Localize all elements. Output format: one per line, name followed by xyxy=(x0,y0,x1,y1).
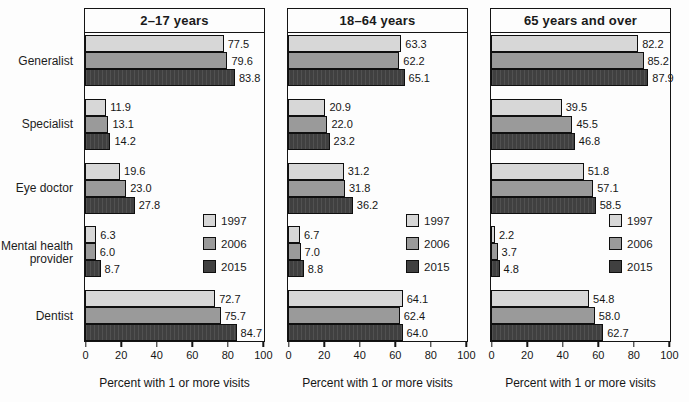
bar-row: 39.5 xyxy=(491,99,670,116)
legend-label: 2006 xyxy=(221,238,247,250)
bar-value-label: 8.7 xyxy=(105,263,120,275)
bar-value-label: 54.8 xyxy=(593,293,614,305)
bar-value-label: 22.0 xyxy=(331,118,352,130)
bar-row: 64.0 xyxy=(288,324,467,341)
bar-row: 11.9 xyxy=(85,99,264,116)
bar-group-specialist: 11.913.114.2 xyxy=(85,99,264,150)
bar-value-label: 57.1 xyxy=(597,182,618,194)
bar-group-dentist: 64.162.464.0 xyxy=(288,290,467,341)
bar-1997 xyxy=(491,99,562,116)
bar-1997 xyxy=(85,99,106,116)
bar-2006 xyxy=(491,52,644,69)
x-tick-label: 40 xyxy=(151,349,163,361)
bar-2006 xyxy=(288,243,301,260)
bar-group-dentist: 72.775.784.7 xyxy=(85,290,264,341)
bar-2015 xyxy=(85,133,110,150)
x-tick-label: 60 xyxy=(389,349,401,361)
legend-label: 2015 xyxy=(221,261,247,273)
x-tick-label: 60 xyxy=(592,349,604,361)
x-tick-label: 80 xyxy=(628,349,640,361)
bar-value-label: 58.5 xyxy=(600,199,621,211)
bar-value-label: 27.8 xyxy=(139,199,160,211)
category-label-dentist: Dentist xyxy=(0,310,80,324)
bar-row: 54.8 xyxy=(491,290,670,307)
x-tick-label: 100 xyxy=(660,349,678,361)
panel-2-17-years: 2–17 years77.579.683.811.913.114.219.623… xyxy=(84,8,265,390)
bar-row: 27.8 xyxy=(85,197,264,214)
x-tick-mark xyxy=(288,342,289,347)
category-label-eye-doctor: Eye doctor xyxy=(0,182,80,196)
panel-box: 18–64 years63.362.265.120.922.023.231.23… xyxy=(287,8,468,342)
bar-row: 31.2 xyxy=(288,163,467,180)
bar-row: 45.5 xyxy=(491,116,670,133)
bar-row: 14.2 xyxy=(85,133,264,150)
bar-row: 46.8 xyxy=(491,133,670,150)
bar-value-label: 45.5 xyxy=(576,118,597,130)
x-tick-mark xyxy=(491,342,492,347)
bar-value-label: 51.8 xyxy=(588,165,609,177)
bar-value-label: 46.8 xyxy=(579,135,600,147)
bar-2006 xyxy=(85,180,126,197)
bar-row: 64.1 xyxy=(288,290,467,307)
bar-row: 75.7 xyxy=(85,307,264,324)
bar-1997 xyxy=(491,290,589,307)
legend-swatch-2015 xyxy=(406,260,419,273)
x-tick-mark xyxy=(323,342,324,347)
bar-row: 22.0 xyxy=(288,116,467,133)
bar-value-label: 58.0 xyxy=(599,310,620,322)
x-tick-mark xyxy=(633,342,634,347)
x-tick-mark xyxy=(227,342,228,347)
bar-2015 xyxy=(288,197,353,214)
bar-2006 xyxy=(288,307,400,324)
category-labels: GeneralistSpecialistEye doctorMental hea… xyxy=(0,0,80,402)
x-tick-mark xyxy=(263,342,264,347)
x-tick-label: 0 xyxy=(286,349,292,361)
legend-row-1997: 1997 xyxy=(609,213,653,228)
bar-2015 xyxy=(288,260,304,277)
legend-row-2006: 2006 xyxy=(609,236,653,251)
bar-2006 xyxy=(288,52,399,69)
x-tick-label: 100 xyxy=(254,349,272,361)
panel-65-years-and-over: 65 years and over82.285.287.939.545.546.… xyxy=(490,8,671,390)
x-axis: 020406080100 xyxy=(492,342,670,367)
bar-2006 xyxy=(491,243,498,260)
legend-row-2015: 2015 xyxy=(609,259,653,274)
bar-2015 xyxy=(85,197,135,214)
panel-box: 65 years and over82.285.287.939.545.546.… xyxy=(490,8,671,342)
bar-row: 23.0 xyxy=(85,180,264,197)
bar-row: 63.3 xyxy=(288,35,467,52)
bar-2015 xyxy=(85,260,101,277)
x-tick-mark xyxy=(395,342,396,347)
x-tick-label: 80 xyxy=(425,349,437,361)
legend-swatch-1997 xyxy=(203,214,216,227)
bar-group-generalist: 63.362.265.1 xyxy=(288,35,467,86)
bar-1997 xyxy=(288,99,325,116)
bar-1997 xyxy=(288,35,401,52)
bar-2006 xyxy=(85,116,108,133)
legend-swatch-2006 xyxy=(406,237,419,250)
bar-2006 xyxy=(491,180,593,197)
x-tick-mark xyxy=(359,342,360,347)
bar-2006 xyxy=(85,52,227,69)
bar-row: 85.2 xyxy=(491,52,670,69)
panel-box: 2–17 years77.579.683.811.913.114.219.623… xyxy=(84,8,265,342)
bar-area: 63.362.265.120.922.023.231.231.836.26.77… xyxy=(288,33,467,341)
x-tick-label: 0 xyxy=(83,349,89,361)
bar-value-label: 62.2 xyxy=(403,55,424,67)
bar-row: 58.0 xyxy=(491,307,670,324)
bar-2006 xyxy=(85,243,96,260)
x-tick-mark xyxy=(192,342,193,347)
panel-title: 65 years and over xyxy=(491,9,670,33)
bar-value-label: 23.2 xyxy=(334,135,355,147)
x-tick-label: 80 xyxy=(222,349,234,361)
x-axis: 020406080100 xyxy=(289,342,467,367)
legend-label: 1997 xyxy=(424,215,450,227)
legend-label: 2015 xyxy=(627,261,653,273)
bar-1997 xyxy=(288,290,403,307)
legend-swatch-2006 xyxy=(203,237,216,250)
bar-value-label: 65.1 xyxy=(409,72,430,84)
bar-value-label: 62.7 xyxy=(607,327,628,339)
bar-row: 87.9 xyxy=(491,69,670,86)
bar-value-label: 39.5 xyxy=(566,101,587,113)
bar-group-eye-doctor: 51.857.158.5 xyxy=(491,163,670,214)
